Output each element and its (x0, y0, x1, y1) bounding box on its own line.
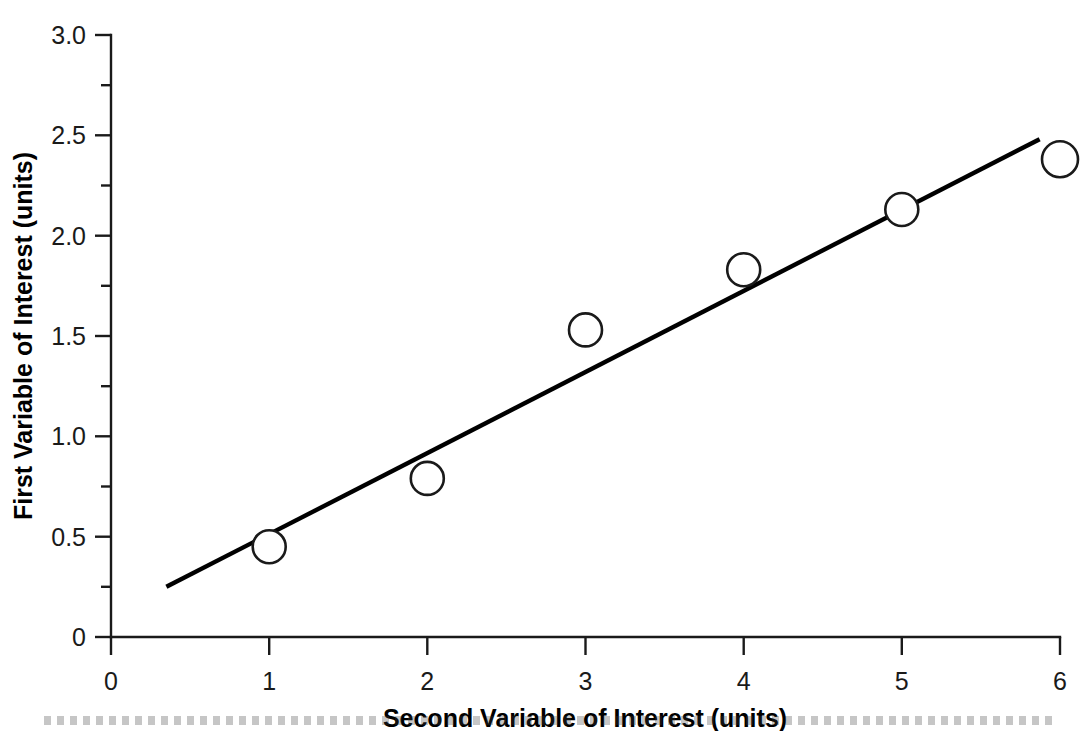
y-tick-label: 1.0 (51, 422, 86, 450)
data-point (727, 253, 760, 286)
y-axis-title: First Variable of Interest (units) (9, 152, 37, 520)
data-point (569, 313, 602, 346)
x-tick-label: 5 (895, 667, 909, 695)
clipped-caption-artifact (44, 716, 1054, 725)
y-axis-tick-labels: 0 0.5 1.0 1.5 2.0 2.5 3.0 (51, 21, 86, 651)
y-tick-label: 0.5 (51, 523, 86, 551)
scatter-plot-figure: 0 0.5 1.0 1.5 2.0 2.5 3.0 0 1 2 3 4 5 6 (0, 0, 1090, 731)
plot-canvas: 0 0.5 1.0 1.5 2.0 2.5 3.0 0 1 2 3 4 5 6 (0, 0, 1090, 731)
x-tick-label: 1 (262, 667, 276, 695)
x-tick-label: 6 (1053, 667, 1067, 695)
y-tick-label: 0 (72, 623, 86, 651)
x-tick-label: 4 (737, 667, 751, 695)
y-tick-label: 1.5 (51, 322, 86, 350)
data-point-markers (253, 141, 1078, 563)
y-tick-label: 3.0 (51, 21, 86, 49)
x-tick-label: 3 (579, 667, 593, 695)
y-axis-major-ticks (95, 35, 111, 637)
data-point (885, 193, 918, 226)
x-tick-label: 2 (420, 667, 434, 695)
x-tick-label: 0 (104, 667, 118, 695)
x-axis-major-ticks (111, 637, 1060, 655)
data-point (411, 462, 444, 495)
x-axis-tick-labels: 0 1 2 3 4 5 6 (104, 667, 1067, 695)
data-point (1042, 141, 1078, 177)
y-tick-label: 2.5 (51, 121, 86, 149)
y-tick-label: 2.0 (51, 222, 86, 250)
data-point (253, 530, 286, 563)
